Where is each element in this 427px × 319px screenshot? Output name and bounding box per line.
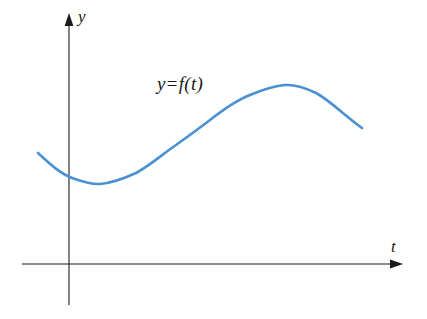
graph-canvas <box>0 0 427 319</box>
t-axis-label: t <box>391 238 396 255</box>
y-axis-arrowhead <box>65 13 74 26</box>
curve-label-y: y <box>157 73 166 94</box>
y-axis-label: y <box>78 8 86 25</box>
curve-label-equals: = <box>166 73 179 94</box>
function-graph-figure: y t y=f(t) <box>0 0 427 319</box>
curve-label-fn: f(t) <box>179 73 203 94</box>
t-axis-arrowhead <box>390 260 403 269</box>
function-curve <box>38 85 362 184</box>
curve-equation-label: y=f(t) <box>157 74 203 93</box>
